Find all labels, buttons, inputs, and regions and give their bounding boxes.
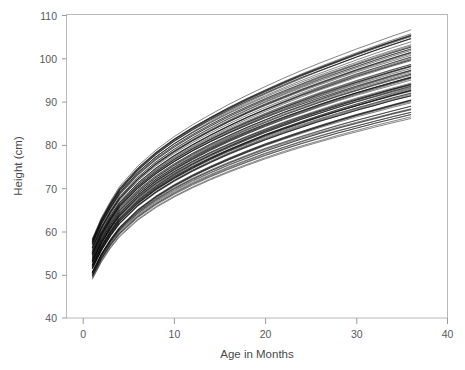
- y-tick-label-110: 110: [40, 10, 57, 22]
- x-axis-title: Age in Months: [220, 348, 294, 360]
- y-tick-label-80: 80: [45, 139, 57, 151]
- y-tick-label-40: 40: [45, 312, 57, 324]
- growth-curve-figure: 110 100 90 80 70 60 50 40 0 10 20 30 40 …: [0, 0, 465, 370]
- x-tick-label-30: 30: [351, 328, 363, 340]
- y-tick-label-60: 60: [45, 226, 57, 238]
- y-tick-label-50: 50: [45, 269, 57, 281]
- y-tick-label-100: 100: [39, 53, 57, 65]
- chart-svg: 110 100 90 80 70 60 50 40 0 10 20 30 40 …: [0, 0, 465, 370]
- y-axis-title: Height (cm): [12, 136, 24, 196]
- y-tick-label-70: 70: [45, 183, 57, 195]
- x-tick-label-10: 10: [169, 328, 181, 340]
- x-tick-label-40: 40: [442, 328, 454, 340]
- y-tick-label-90: 90: [45, 96, 57, 108]
- x-tick-label-0: 0: [80, 328, 86, 340]
- x-tick-label-20: 20: [260, 328, 272, 340]
